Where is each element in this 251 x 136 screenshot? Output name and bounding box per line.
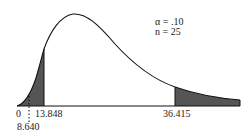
n-label: n = 25 (155, 27, 181, 37)
density-curve (17, 14, 240, 106)
tick-label-lower-critical: 13.848 (35, 109, 63, 119)
left-shaded-region (17, 49, 44, 106)
tick-label-zero: 0 (16, 109, 21, 119)
test-statistic-label: 8.640 (17, 122, 40, 132)
tick-label-upper-critical: 36.415 (163, 109, 191, 119)
